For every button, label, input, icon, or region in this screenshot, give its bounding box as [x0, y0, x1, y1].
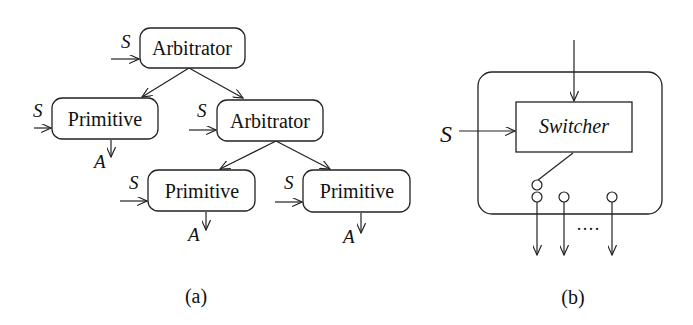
edge-root-to-left-primitive [142, 68, 189, 97]
edge-mid-to-bottom-right [276, 141, 330, 169]
diagram-b: Switcher S ···· (b) [440, 40, 662, 309]
output-contact-icon [559, 192, 569, 202]
node-root-arbitrator: Arbitrator S [111, 28, 245, 68]
node-left-primitive: Primitive S A [33, 98, 158, 172]
output-contact-icon [607, 192, 617, 202]
switcher-label: Switcher [539, 115, 609, 137]
caption-a: (a) [185, 285, 207, 308]
edge-root-to-mid-arbitrator [189, 68, 243, 98]
node-label: Primitive [68, 108, 143, 130]
figure: Arbitrator S Primitive S A Arbitrator S … [0, 0, 693, 325]
input-signal-label: S [121, 31, 131, 52]
diagram-a: Arbitrator S Primitive S A Arbitrator S … [33, 28, 410, 308]
input-signal-label: S [440, 121, 452, 147]
output-signal-label: A [186, 224, 200, 245]
node-bottom-left-primitive: Primitive S A [120, 170, 255, 245]
node-mid-arbitrator: Arbitrator S [189, 100, 323, 141]
input-signal-label: S [33, 100, 43, 121]
input-signal-label: S [129, 172, 139, 193]
input-signal-label: S [197, 100, 207, 121]
node-label: Primitive [165, 180, 240, 202]
caption-b: (b) [561, 286, 584, 309]
node-label: Arbitrator [230, 110, 310, 132]
node-label: Arbitrator [152, 37, 232, 59]
output-signal-label: A [341, 226, 355, 247]
node-label: Primitive [320, 180, 395, 202]
node-bottom-right-primitive: Primitive S A [275, 170, 410, 247]
output-signal-label: A [92, 151, 106, 172]
output-contact-icon [532, 192, 542, 202]
ellipsis: ···· [576, 219, 600, 239]
edge-mid-to-bottom-left [220, 141, 276, 169]
input-signal-label: S [284, 172, 294, 193]
switch-contact-icon [532, 180, 542, 190]
